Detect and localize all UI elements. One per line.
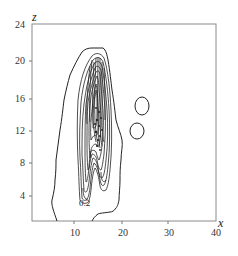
plot-frame xyxy=(32,24,216,221)
z-tick-labels: 4 8 12 16 20 24 xyxy=(15,19,25,201)
isolated-contour-lower xyxy=(130,123,144,139)
x-tick-labels: 10 20 30 40 xyxy=(70,227,221,238)
isolated-contour-upper xyxy=(135,97,149,115)
z-tick-12: 12 xyxy=(15,125,25,136)
x-tick-30: 30 xyxy=(164,227,174,238)
x-axis-label: x xyxy=(217,216,224,230)
contour-chart: 4 8 12 16 20 24 z 10 20 30 40 x xyxy=(0,0,238,256)
z-tick-8: 8 xyxy=(20,157,25,168)
contour-level-label: 0.2 xyxy=(79,198,90,208)
x-tick-20: 20 xyxy=(118,227,128,238)
x-tick-10: 10 xyxy=(70,227,80,238)
inner-contours xyxy=(77,54,111,204)
z-tick-4: 4 xyxy=(20,190,25,201)
z-tick-20: 20 xyxy=(15,55,25,66)
z-tick-16: 16 xyxy=(15,93,25,104)
z-axis-label: z xyxy=(31,10,37,24)
z-tick-24: 24 xyxy=(15,19,25,30)
